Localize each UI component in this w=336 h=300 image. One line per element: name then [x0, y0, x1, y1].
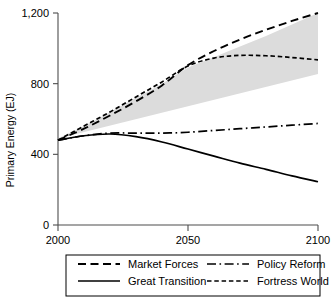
legend-label: Policy Reform [257, 258, 325, 270]
y-axis-title: Primary Energy (EJ) [4, 93, 16, 188]
y-axis-ticks: 04008001,200 [21, 7, 58, 231]
chart-figure: 04008001,200 200020502100 Primary Energy… [0, 0, 336, 300]
y-tick-label: 1,200 [21, 7, 49, 19]
legend-label: Fortress World [257, 275, 329, 287]
x-tick-label: 2050 [176, 234, 200, 246]
y-tick-label: 800 [31, 78, 49, 90]
x-tick-label: 2100 [306, 234, 330, 246]
legend-label: Market Forces [128, 258, 199, 270]
y-tick-label: 400 [31, 148, 49, 160]
chart-legend: Market ForcesPolicy ReformGreat Transiti… [66, 255, 329, 296]
primary-energy-line-chart: 04008001,200 200020502100 Primary Energy… [0, 0, 336, 300]
legend-label: Great Transition [128, 275, 206, 287]
x-axis-ticks: 200020502100 [46, 225, 330, 246]
y-tick-label: 0 [43, 219, 49, 231]
x-tick-label: 2000 [46, 234, 70, 246]
series-great-transition [58, 134, 318, 182]
